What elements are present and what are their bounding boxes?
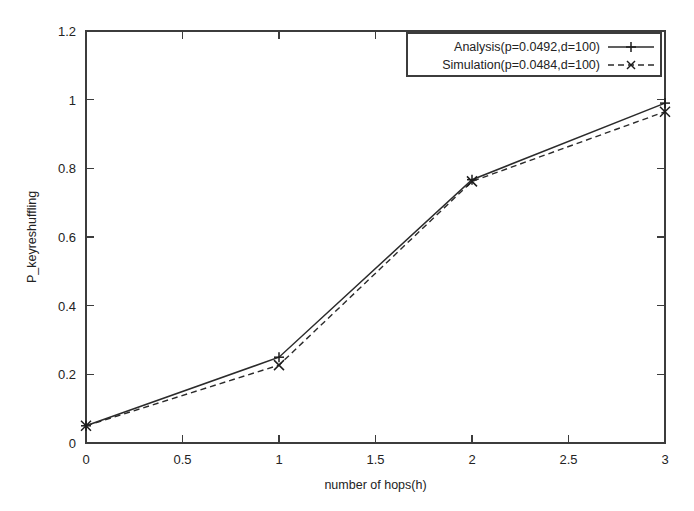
chart-figure: 0 0.2 0.4 0.6 0.8 1 1.2 0 0.5 1 1.5 xyxy=(0,0,694,511)
x-tick-label-1: 0.5 xyxy=(173,452,191,467)
legend-label-simulation: Simulation(p=0.0484,d=100) xyxy=(442,58,600,72)
x-tick-label-4: 2 xyxy=(468,452,475,467)
y-tick-label-0: 0 xyxy=(69,436,76,451)
x-tick-label-6: 3 xyxy=(661,452,668,467)
x-tick-label-2: 1 xyxy=(275,452,282,467)
series-analysis xyxy=(81,98,670,431)
line-chart: 0 0.2 0.4 0.6 0.8 1 1.2 0 0.5 1 1.5 xyxy=(0,0,694,511)
legend-label-analysis: Analysis(p=0.0492,d=100) xyxy=(454,40,600,54)
y-tick-label-1: 0.2 xyxy=(58,367,76,382)
y-axis-ticks xyxy=(86,31,665,443)
y-axis-title: P_keyreshuffling xyxy=(25,191,39,283)
y-tick-label-4: 0.8 xyxy=(58,161,76,176)
y-tick-label-3: 0.6 xyxy=(58,230,76,245)
plot-frame xyxy=(86,31,665,443)
x-tick-label-3: 1.5 xyxy=(366,452,384,467)
y-tick-label-6: 1.2 xyxy=(58,24,76,39)
legend: Analysis(p=0.0492,d=100) Simulation(p=0.… xyxy=(407,33,661,76)
x-tick-label-0: 0 xyxy=(82,452,89,467)
series-line xyxy=(86,103,665,426)
x-tick-label-5: 2.5 xyxy=(559,452,577,467)
x-axis-ticks xyxy=(86,31,665,443)
series-layer xyxy=(81,98,670,431)
x-axis-title: number of hops(h) xyxy=(324,478,426,492)
y-tick-label-2: 0.4 xyxy=(58,299,76,314)
y-tick-label-5: 1 xyxy=(69,93,76,108)
